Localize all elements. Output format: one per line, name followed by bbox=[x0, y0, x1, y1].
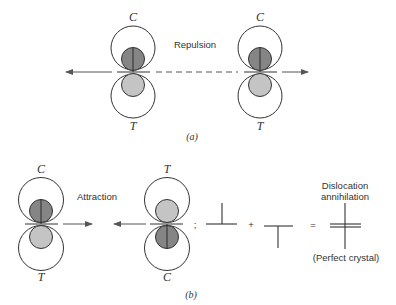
bottom-label: C bbox=[163, 270, 172, 284]
dislocation-b-left: C T bbox=[19, 162, 64, 284]
annihilation-title-line1: Dislocation bbox=[322, 180, 368, 191]
tension-core-circle bbox=[30, 226, 53, 249]
dislocation-b-right: T C bbox=[145, 162, 190, 284]
tension-core-circle bbox=[249, 74, 272, 97]
top-label: T bbox=[164, 162, 172, 176]
plus-sign: + bbox=[248, 219, 254, 230]
part-b: C T T C Attraction ; + = bbox=[19, 162, 380, 301]
attraction-label: Attraction bbox=[77, 191, 117, 202]
bottom-label: T bbox=[257, 119, 265, 133]
bottom-label: T bbox=[130, 119, 138, 133]
tension-core-circle bbox=[122, 74, 145, 97]
equals-sign: = bbox=[310, 219, 316, 230]
perfect-crystal-caption: (Perfect crystal) bbox=[313, 252, 380, 263]
top-label: C bbox=[37, 162, 46, 176]
separator: ; bbox=[194, 219, 197, 230]
part-a: C T C T Repulsion (a) bbox=[66, 10, 308, 143]
bottom-label: T bbox=[38, 270, 46, 284]
annihilation-title-line2: annihilation bbox=[321, 191, 369, 202]
negative-edge-dislocation-symbol bbox=[264, 226, 293, 248]
top-label: C bbox=[256, 10, 265, 24]
caption-b: (b) bbox=[185, 289, 197, 301]
dislocation-a-left: C T bbox=[111, 10, 155, 133]
annihilation-symbol bbox=[330, 203, 361, 249]
repulsion-label: Repulsion bbox=[174, 39, 216, 50]
dislocation-interaction-diagram: C T C T Repulsion (a) C T bbox=[0, 0, 396, 305]
caption-a: (a) bbox=[186, 131, 198, 143]
dislocation-a-right: C T bbox=[238, 10, 282, 133]
positive-edge-dislocation-symbol bbox=[206, 203, 237, 224]
tension-core-circle bbox=[156, 200, 179, 223]
top-label: C bbox=[129, 10, 138, 24]
